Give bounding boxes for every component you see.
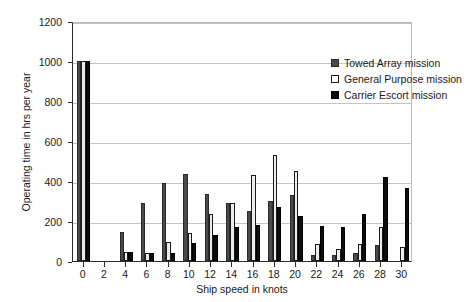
bar [362,214,366,261]
y-tick-label: 600 [14,137,62,148]
gridline [73,143,411,144]
x-tick-mark [125,262,126,267]
bar [128,252,132,261]
gridline [73,223,411,224]
bar [213,235,217,261]
plot-area: Towed Array missionGeneral Purpose missi… [72,22,412,262]
bar [341,227,345,261]
y-tick-label: 1200 [14,17,62,28]
x-tick-mark [210,262,211,267]
gridline [73,183,411,184]
bar [320,226,324,261]
legend-label: General Purpose mission [344,74,462,85]
x-tick-mark [146,262,147,267]
bar [277,207,281,261]
y-tick-label: 200 [14,217,62,228]
bar [405,188,409,261]
legend-item: Carrier Escort mission [331,87,462,103]
x-tick-label: 30 [389,269,413,280]
bar [150,253,154,261]
y-tick-label: 400 [14,177,62,188]
legend-label: Towed Array mission [344,58,440,69]
legend-label: Carrier Escort mission [344,90,447,101]
x-tick-mark [104,262,105,267]
x-tick-mark [253,262,254,267]
y-tick-label: 0 [14,257,62,268]
x-tick-mark [231,262,232,267]
x-tick-mark [338,262,339,267]
bar [298,216,302,261]
legend-item: Towed Array mission [331,55,462,71]
x-tick-mark [401,262,402,267]
y-tick-mark [68,262,72,263]
bar [86,61,90,261]
legend-swatch-icon [331,75,339,83]
x-tick-mark [359,262,360,267]
x-axis-label: Ship speed in knots [72,283,412,295]
x-tick-mark [295,262,296,267]
x-tick-mark [316,262,317,267]
bar [171,253,175,261]
x-tick-mark [189,262,190,267]
legend-swatch-icon [331,91,339,99]
legend-swatch-icon [331,59,339,67]
x-tick-mark [274,262,275,267]
x-tick-mark [83,262,84,267]
bar [256,225,260,261]
bar [383,177,387,261]
x-tick-mark [168,262,169,267]
chart-legend: Towed Array missionGeneral Purpose missi… [327,53,466,105]
x-tick-mark [380,262,381,267]
gridline [73,23,411,24]
bar [192,243,196,261]
y-tick-label: 800 [14,97,62,108]
legend-item: General Purpose mission [331,71,462,87]
bar [235,227,239,261]
y-tick-label: 1000 [14,57,62,68]
